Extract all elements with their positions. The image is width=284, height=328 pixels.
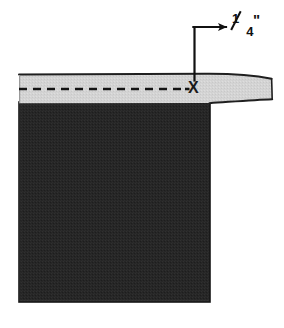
x-mark-label: X (188, 80, 199, 96)
binding-strip-right-tip (272, 79, 273, 99)
figure-canvas: X 1 4 " (0, 0, 284, 328)
measurement-label: 1 4 " (232, 9, 280, 41)
dark-fabric-panel (19, 102, 210, 302)
inch-symbol: " (253, 12, 260, 27)
fraction-denominator: 4 (246, 25, 253, 38)
sewing-diagram-illustration (0, 0, 284, 328)
measurement-leader-line (193, 27, 226, 81)
dark-fabric-body (19, 102, 210, 302)
fraction-one-quarter: 1 4 (232, 13, 252, 37)
